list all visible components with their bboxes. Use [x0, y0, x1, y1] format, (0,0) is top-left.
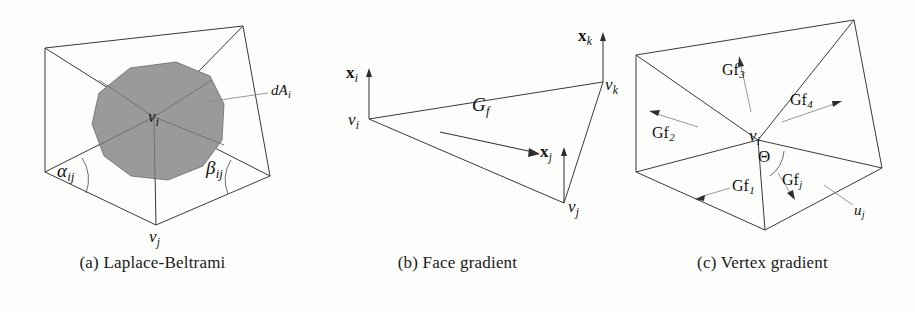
- figure-container: vi vj αij βij dAi: [0, 0, 915, 312]
- label-vertex-value-xi: xi: [346, 64, 358, 84]
- label-bottom-vertex-vj: vj: [149, 228, 160, 248]
- caption-panel-a: (a) Laplace-Beltrami: [0, 248, 305, 288]
- label-face-gradient-gf1: Gf1: [732, 178, 755, 196]
- label-face-gradient-gf2: Gf2: [652, 125, 675, 143]
- label-face-gradient-gf4: Gf4: [790, 92, 813, 110]
- face-gradient-vector: [440, 132, 540, 157]
- angle-arc-beta: [225, 160, 231, 194]
- caption-panel-c: (c) Vertex gradient: [610, 248, 915, 288]
- panel-laplace-beltrami: vi vj αij βij dAi: [0, 0, 305, 250]
- label-center-vertex-vi: vi: [749, 127, 760, 147]
- label-angle-theta: Θ: [758, 148, 770, 165]
- uj-leader-line: [824, 185, 853, 205]
- label-center-vertex-vi: vi: [148, 108, 159, 128]
- panel-face-gradient: xi xk xj vi vk vj Gf: [305, 0, 610, 250]
- caption-panel-b: (b) Face gradient: [305, 248, 610, 288]
- face-gradient-arrow-gf1: [695, 188, 730, 201]
- panel-vertex-gradient: Gf1 Gf2 Gf3 Gf4 Gfj Θ vi uj: [610, 0, 915, 250]
- label-vertex-value-xk: xk: [578, 27, 592, 47]
- vertex-value-arrow-xi: [366, 68, 372, 119]
- label-vertex-value-xj: xj: [540, 143, 552, 163]
- label-vertex-vi: vi: [348, 111, 359, 131]
- caption-row: (a) Laplace-Beltrami (b) Face gradient (…: [0, 248, 915, 288]
- vertex-value-arrow-xj: [561, 147, 567, 203]
- label-angle-beta: βij: [206, 158, 223, 181]
- label-uj: uj: [854, 203, 865, 220]
- label-face-gradient-gfj: Gfj: [782, 172, 802, 190]
- label-angle-alpha: αij: [57, 161, 74, 184]
- angle-arc-alpha: [82, 158, 89, 193]
- label-face-gradient-gf: Gf: [472, 95, 490, 118]
- label-face-gradient-gf3: Gf3: [722, 62, 745, 80]
- label-vertex-vj: vj: [568, 198, 579, 218]
- label-area-dai: dAi: [271, 83, 291, 100]
